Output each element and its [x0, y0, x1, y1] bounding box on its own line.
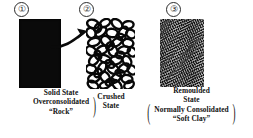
- caption-remoulded-paren-group: ( ) Normally Consolidated “Soft Clay”: [147, 105, 235, 124]
- step-number-3: ③: [166, 2, 181, 17]
- step-number-2: ②: [79, 2, 94, 17]
- caption-solid-line-2: “Rock”: [33, 107, 89, 116]
- specimen-remoulded-state: [160, 19, 204, 87]
- crushed-rings-texture: [86, 18, 135, 89]
- specimen-crushed-state: [86, 18, 135, 89]
- step-number-1: ①: [14, 2, 29, 17]
- caption-remoulded-line-3: Normally Consolidated: [154, 105, 228, 114]
- paren-left-3: (: [147, 103, 150, 126]
- paren-right-3: ): [233, 103, 236, 126]
- caption-remoulded-state: Remoulded State ( ) Normally Consolidate…: [130, 86, 253, 124]
- caption-remoulded-line-1: Remoulded: [130, 86, 253, 95]
- figure-root: ① Solid State ) Overconsolidated “Rock” …: [0, 0, 253, 138]
- caption-solid-line-1: Overconsolidated: [33, 97, 89, 106]
- caption-remoulded-line-4: “Soft Clay”: [154, 114, 228, 123]
- specimen-solid-state: [19, 19, 61, 88]
